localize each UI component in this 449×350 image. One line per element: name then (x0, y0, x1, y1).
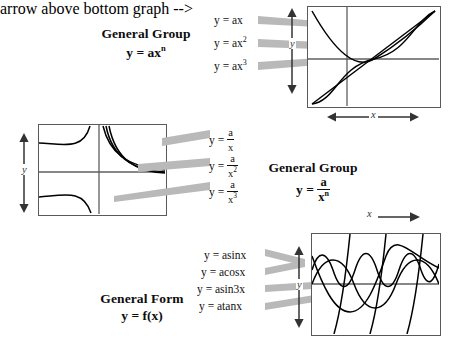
trig-equation-3: y = asin3x (197, 284, 245, 296)
reciprocal-group-heading: General Group y = a xn (253, 160, 373, 205)
diagram-canvas: General Group y = axn y = ax y = ax2 y =… (0, 0, 449, 350)
reciprocal-equation-1: y = a x (209, 129, 234, 154)
reciprocal-equation-2: y = a x2 (209, 155, 238, 180)
trig-group-heading: General Form y = f(x) (77, 291, 207, 325)
reciprocal-y-axis-label: y (21, 164, 28, 175)
trig-equation-4: y = atanx (199, 301, 242, 313)
power-group-heading: General Group y = axn (86, 26, 206, 61)
power-y-axis-arrow (284, 8, 300, 94)
trig-equation-2: y = acosx (201, 267, 245, 279)
reciprocal-equation-3: y = a x3 (209, 181, 238, 206)
power-y-axis-label: y (289, 38, 296, 49)
power-equation-1: y = ax (214, 13, 243, 26)
heading-fraction-a-over-x-n: a xn (317, 176, 330, 204)
trig-heading-title: General Form (77, 291, 207, 307)
power-equation-3: y = ax3 (214, 59, 247, 72)
power-graph-svg (308, 7, 439, 106)
fraction-a-over-x-squared: a x2 (227, 154, 238, 179)
trig-equation-1: y = asinx (204, 250, 246, 262)
trig-heading-equation: y = f(x) (77, 308, 207, 324)
reciprocal-graph-box (38, 124, 167, 216)
fraction-a-over-x: a x (227, 128, 234, 153)
power-heading-equation: y = axn (86, 43, 206, 61)
trig-x-axis-arrow (378, 210, 420, 224)
power-x-axis-label: x (369, 109, 378, 120)
reciprocal-graph-svg (39, 125, 165, 214)
power-heading-title: General Group (86, 26, 206, 42)
trig-graph-svg (312, 234, 439, 334)
fraction-a-over-x-cubed: a x3 (227, 180, 238, 205)
power-graph-box (307, 6, 441, 108)
trig-y-axis-label: y (296, 279, 303, 290)
trig-x-axis-label: x (367, 208, 372, 219)
power-equation-2: y = ax2 (214, 36, 247, 49)
reciprocal-heading-equation: y = a xn (253, 177, 373, 205)
trig-graph-box (311, 233, 441, 336)
reciprocal-heading-title: General Group (253, 160, 373, 176)
